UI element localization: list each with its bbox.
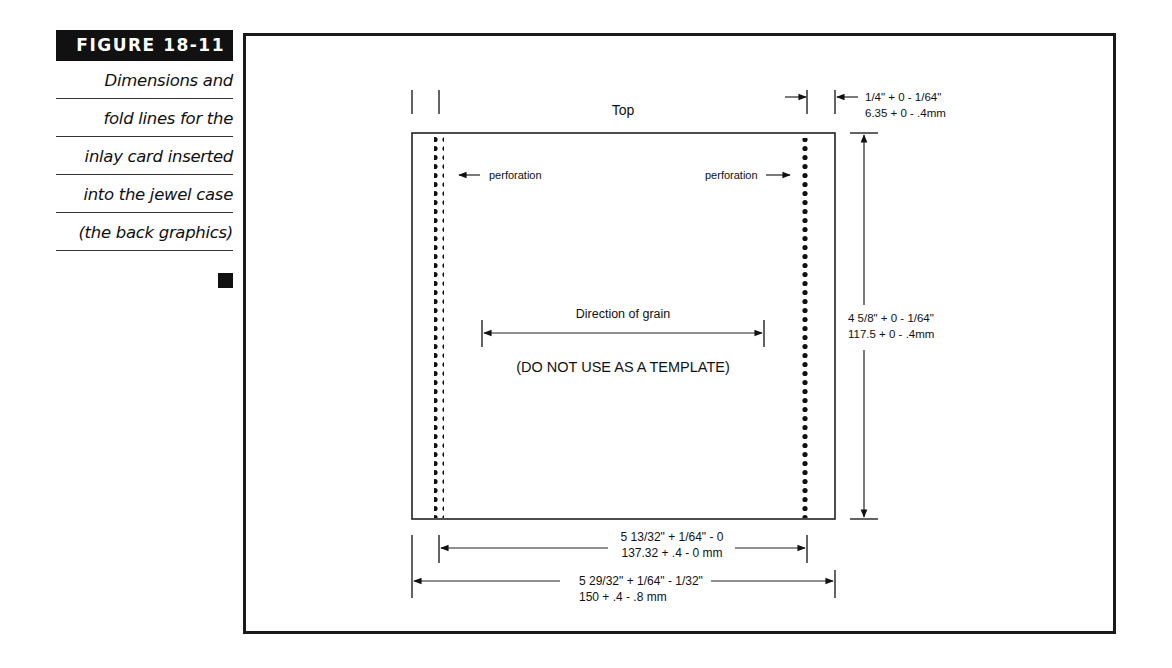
height-dim-imperial: 4 5/8" + 0 - 1/64"	[848, 312, 934, 324]
card-outline	[412, 133, 835, 519]
inner-width-metric: 137.32 + .4 - 0 mm	[621, 546, 722, 560]
top-label: Top	[612, 102, 635, 118]
inlay-card-diagram: Top 1/4" + 0 - 1/64" 6.35 + 0 - .4mm per…	[0, 0, 1172, 668]
grain-label: Direction of grain	[576, 307, 671, 321]
outer-width-metric: 150 + .4 - .8 mm	[579, 590, 667, 604]
inner-width-imperial: 5 13/32" + 1/64" - 0	[621, 530, 724, 544]
perforation-left	[434, 136, 444, 518]
perforation-right	[802, 138, 812, 518]
warning-text: (DO NOT USE AS A TEMPLATE)	[516, 359, 730, 375]
perforation-right-label: perforation	[705, 169, 758, 181]
spine-dim-imperial: 1/4" + 0 - 1/64"	[865, 91, 941, 103]
outer-width-imperial: 5 29/32" + 1/64" - 1/32"	[579, 574, 703, 588]
perforation-left-label: perforation	[489, 169, 542, 181]
height-dim-metric: 117.5 + 0 - .4mm	[848, 328, 934, 340]
spine-dim-metric: 6.35 + 0 - .4mm	[865, 107, 946, 119]
